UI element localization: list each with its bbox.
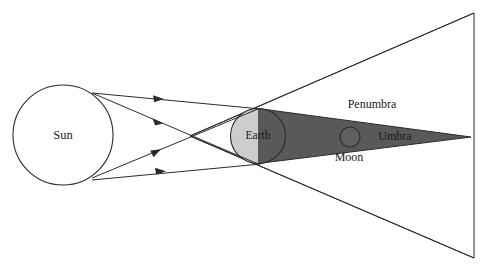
moon-label: Moon: [335, 150, 364, 164]
ray-arrow-1-arrowhead: [153, 95, 164, 102]
penumbra-label: Penumbra: [348, 97, 397, 111]
moon-body: [340, 127, 360, 147]
eclipse-diagram-figure: Sun Earth Moon Umbra Penumbra: [0, 0, 480, 269]
sun-label: Sun: [53, 128, 73, 142]
earth-label: Earth: [246, 129, 271, 141]
ray-sun-bottom-to-earth-bottom: [92, 164, 261, 180]
umbra-region: [258, 109, 471, 164]
eclipse-diagram-canvas: Sun Earth Moon Umbra Penumbra: [0, 0, 480, 269]
ray-arrow-2-arrowhead: [152, 118, 163, 125]
umbra-label: Umbra: [378, 129, 412, 143]
penumbra-upper-edge: [190, 13, 474, 136]
ray-arrow-3-arrowhead: [150, 149, 161, 157]
ray-sun-top-to-earth-top: [92, 93, 261, 109]
